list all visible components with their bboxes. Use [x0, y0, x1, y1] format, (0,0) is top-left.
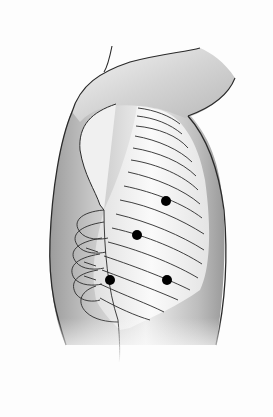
bottom-fade	[0, 318, 273, 363]
marker-dot-4	[162, 275, 172, 285]
marker-dot-3	[105, 275, 115, 285]
bottom-blank	[0, 362, 273, 417]
neck-line	[104, 46, 112, 72]
torso-drawing	[0, 0, 273, 417]
marker-dot-1	[161, 196, 171, 206]
marker-dot-2	[132, 230, 142, 240]
anatomy-illustration	[0, 0, 273, 417]
